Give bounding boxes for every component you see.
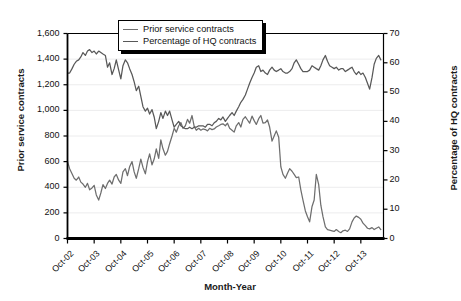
y-tick-label-right: 70 (390, 28, 430, 38)
y-tick-label-left: 400 (20, 181, 60, 191)
tick-marks (64, 34, 388, 244)
y-tick-label-left: 600 (20, 156, 60, 166)
y-tick-label-right: 60 (390, 57, 430, 67)
series-lines (68, 50, 381, 233)
legend-item: Prior service contracts (123, 23, 256, 35)
y-tick-label-left: 1,600 (20, 28, 60, 38)
chart-legend: Prior service contractsPercentage of HQ … (118, 20, 263, 51)
y-tick-label-right: 50 (390, 86, 430, 96)
series-line-1 (68, 116, 381, 233)
legend-label: Percentage of HQ contracts (143, 36, 256, 46)
y-tick-label-right: 20 (390, 174, 430, 184)
y-tick-label-left: 1,400 (20, 53, 60, 63)
y-tick-label-left: 800 (20, 130, 60, 140)
series-line-2 (68, 50, 381, 129)
y-axis-right-title: Percentage of HQ contracts (447, 23, 461, 233)
legend-label: Prior service contracts (143, 24, 234, 34)
y-tick-label-left: 200 (20, 207, 60, 217)
legend-swatch-icon (123, 29, 138, 30)
y-tick-label-left: 0 (20, 233, 60, 243)
gridlines (68, 34, 384, 213)
y-tick-label-right: 0 (390, 233, 430, 243)
y-tick-label-right: 40 (390, 115, 430, 125)
legend-swatch-icon (123, 41, 138, 42)
legend-item: Percentage of HQ contracts (123, 35, 256, 47)
y-tick-label-left: 1,000 (20, 104, 60, 114)
y-tick-label-left: 1,200 (20, 79, 60, 89)
y-tick-label-right: 10 (390, 203, 430, 213)
y-tick-label-right: 30 (390, 145, 430, 155)
